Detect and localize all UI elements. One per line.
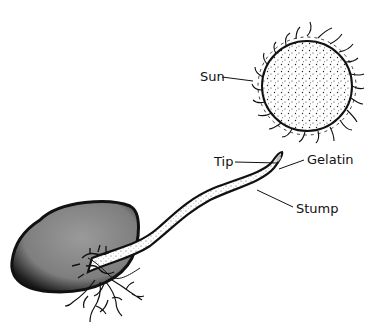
sun-disc [262,41,352,131]
gelatin-label: Gelatin [307,152,354,167]
stump-leader-line [257,190,293,207]
sun-leader-line [222,77,253,81]
seedling-sun-diagram: Sun Tip Gelatin Stump [0,0,387,334]
gelatin-leader-line [279,160,304,169]
sun-illustration [252,22,364,143]
sun-label: Sun [200,69,225,84]
tip-label: Tip [213,154,233,169]
stump-label: Stump [296,201,339,216]
